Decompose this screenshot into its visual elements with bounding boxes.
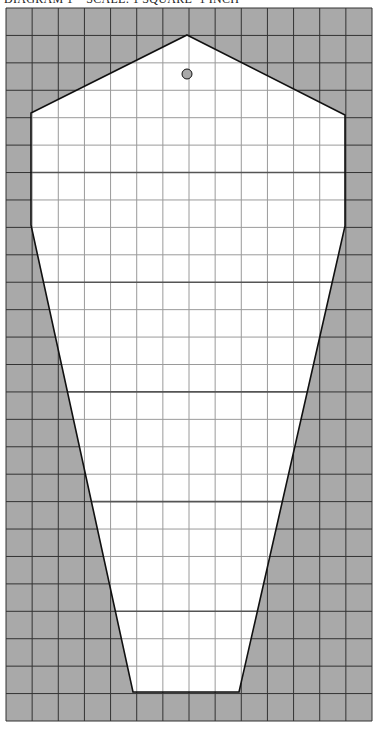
kite-pattern-diagram (0, 0, 375, 730)
hole-marker-icon (182, 69, 192, 79)
